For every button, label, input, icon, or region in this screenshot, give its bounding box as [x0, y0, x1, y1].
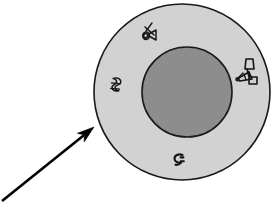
inner-circle [142, 47, 232, 137]
figure-container: Schematic cross-section of a spherical b… [0, 0, 276, 202]
diagram-canvas [0, 0, 276, 202]
